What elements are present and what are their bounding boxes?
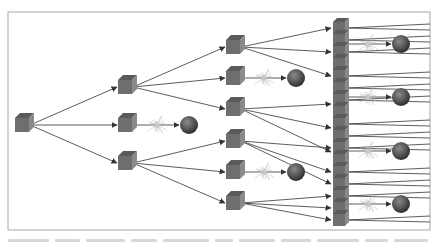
- cube-node: [226, 129, 245, 148]
- arrow-edge: [347, 220, 430, 222]
- arrow-edge: [347, 88, 430, 90]
- branching-tree-diagram: [0, 0, 438, 248]
- arrow-edge: [241, 141, 331, 148]
- arrow-edge: [347, 148, 430, 150]
- arrow-edge: [133, 87, 225, 109]
- arrow-edge: [30, 87, 117, 125]
- cube-node: [226, 160, 245, 179]
- arrow-edge: [133, 163, 225, 203]
- arrow-edge: [133, 78, 225, 87]
- arrow-edge: [133, 47, 225, 87]
- arrow-edge: [347, 168, 430, 172]
- caption-text-truncated: [8, 236, 428, 242]
- arrow-edge: [347, 216, 430, 220]
- arrow-edge: [133, 163, 225, 172]
- cube-node: [118, 113, 137, 132]
- arrow-edge: [347, 36, 430, 40]
- cube-node: [226, 35, 245, 54]
- diagram-canvas: [0, 0, 438, 248]
- sphere-icon: [287, 69, 305, 87]
- cube-node: [226, 66, 245, 85]
- arrow-edge: [347, 144, 430, 148]
- burst-icon: [358, 88, 378, 106]
- arrow-edge: [241, 196, 331, 203]
- sphere-icon: [392, 142, 410, 160]
- sphere-icon: [392, 195, 410, 213]
- arrow-edge: [347, 76, 430, 78]
- arrow-edge: [241, 141, 331, 184]
- burst-icon: [254, 163, 274, 181]
- sphere-icon: [392, 88, 410, 106]
- arrow-edge: [347, 40, 430, 42]
- burst-icon: [358, 195, 378, 213]
- arrow-edge: [347, 120, 430, 124]
- cube-node: [118, 75, 137, 94]
- arrow-edge: [347, 124, 430, 126]
- cube-node: [118, 151, 137, 170]
- arrow-edge: [347, 84, 430, 88]
- burst-icon: [358, 142, 378, 160]
- arrow-edge: [347, 72, 430, 76]
- arrow-edge: [347, 184, 430, 186]
- cube-node: [226, 191, 245, 210]
- arrow-edge: [347, 172, 430, 174]
- arrow-edge: [30, 125, 117, 163]
- sphere-icon: [180, 116, 198, 134]
- sphere-icon: [287, 163, 305, 181]
- arrow-edge: [347, 48, 430, 52]
- burst-icon: [358, 35, 378, 53]
- arrow-edge: [347, 132, 430, 136]
- arrow-edge: [347, 180, 430, 184]
- stack-cube: [333, 210, 349, 226]
- arrow-edge: [133, 141, 225, 163]
- arrow-edge: [347, 192, 430, 196]
- burst-icon: [254, 69, 274, 87]
- arrow-edge: [347, 136, 430, 138]
- caption-cut-off: [8, 236, 428, 248]
- arrow-edge: [241, 28, 331, 47]
- cube-node: [15, 113, 34, 132]
- nodes-layer: [15, 18, 410, 226]
- arrow-edge: [347, 24, 430, 28]
- arrow-edge: [347, 196, 430, 198]
- sphere-icon: [392, 35, 410, 53]
- arrow-edge: [347, 100, 430, 102]
- arrow-edge: [241, 104, 331, 109]
- arrow-edge: [241, 109, 331, 128]
- arrow-edge: [347, 52, 430, 54]
- arrow-edge: [347, 28, 430, 30]
- burst-icon: [147, 116, 167, 134]
- cube-node: [226, 97, 245, 116]
